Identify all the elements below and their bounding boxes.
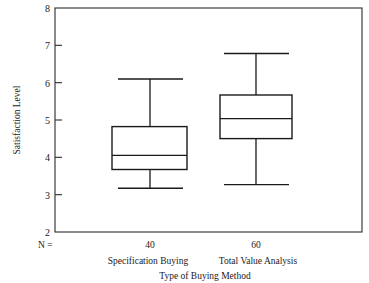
y-axis-title: Satisfaction Level (12, 85, 22, 154)
box-rect-2 (220, 95, 292, 139)
x-axis-title: Type of Buying Method (159, 271, 251, 281)
y-tick-label-7: 7 (45, 40, 50, 51)
box-plot-svg: 8 7 6 5 4 3 2 Satisfaction Level (0, 0, 369, 283)
plot-frame (55, 8, 362, 232)
box-plot-group-2 (220, 54, 292, 185)
x-category-label-2: Total Value Analysis (219, 256, 298, 266)
n-value-group-1: 40 (145, 240, 155, 250)
box-rect-1 (112, 127, 187, 170)
x-category-label-1: Specification Buying (108, 256, 189, 266)
y-tick-label-3: 3 (45, 190, 50, 201)
y-tick-label-2: 2 (45, 227, 50, 238)
y-tick-label-4: 4 (45, 152, 50, 163)
y-tick-label-8: 8 (45, 3, 50, 14)
y-tick-label-5: 5 (45, 115, 50, 126)
box-plot-figure: 8 7 6 5 4 3 2 Satisfaction Level (0, 0, 369, 283)
n-value-group-2: 60 (251, 240, 261, 250)
box-plot-group-1 (112, 79, 187, 188)
y-axis-ticks (55, 45, 62, 194)
y-tick-label-6: 6 (45, 78, 50, 89)
y-axis-tick-labels: 8 7 6 5 4 3 2 (45, 3, 50, 238)
n-prefix-label: N = (38, 240, 53, 250)
